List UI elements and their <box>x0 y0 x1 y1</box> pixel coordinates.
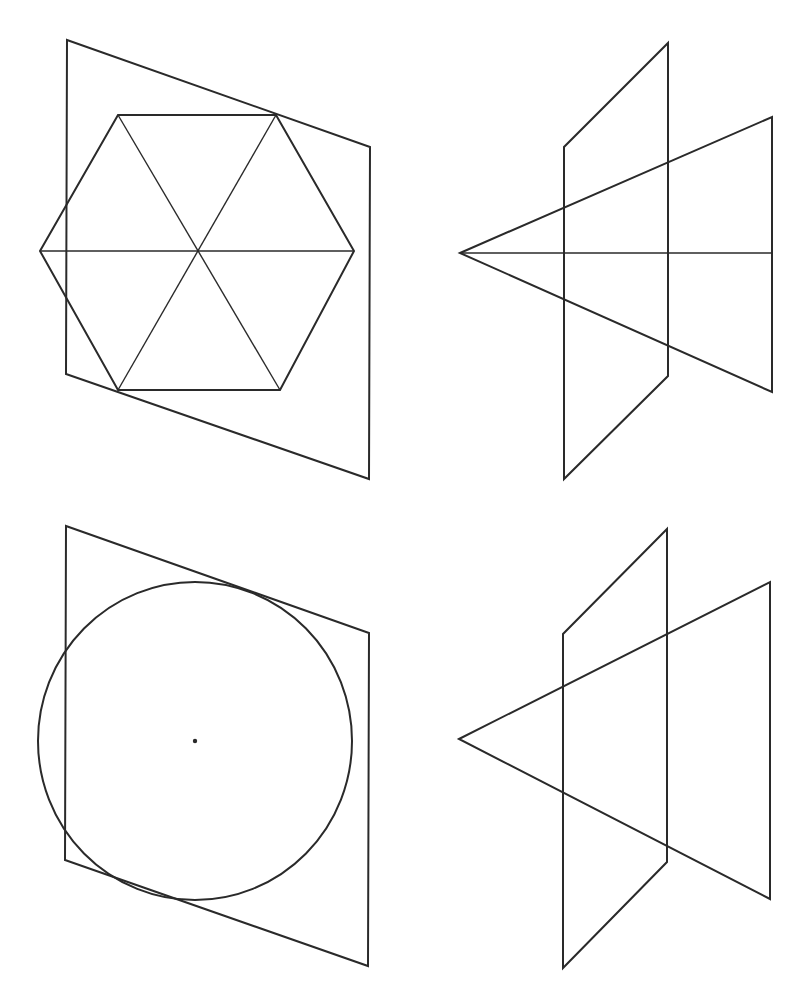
parallelogram-plane <box>65 526 369 966</box>
panel-circle-front <box>38 526 369 966</box>
geometry-diagram <box>0 0 802 994</box>
triangle <box>459 582 770 899</box>
panel-hexagon-side <box>460 43 772 479</box>
center-point <box>193 739 197 743</box>
parallelogram-plane <box>564 43 668 479</box>
panel-hexagon-front <box>40 40 370 479</box>
panel-circle-side <box>459 529 770 968</box>
hexagon-diagonals <box>40 115 354 390</box>
triangle <box>460 117 772 392</box>
parallelogram-plane <box>66 40 370 479</box>
parallelogram-plane <box>563 529 667 968</box>
